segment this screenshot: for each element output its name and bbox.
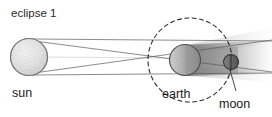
sun-label: sun — [12, 86, 32, 100]
sun-body — [11, 39, 48, 76]
earth-lit-half — [170, 45, 185, 76]
figure-title: eclipse 1 — [11, 7, 56, 19]
earth-body — [170, 45, 201, 76]
moon-body — [224, 55, 239, 70]
moon-label: moon — [219, 97, 250, 111]
earth-label: earth — [162, 87, 191, 101]
eclipse-diagram: eclipse 1 sun earth moon — [0, 0, 272, 117]
diagram-canvas: eclipse 1 sun earth moon — [0, 0, 272, 117]
